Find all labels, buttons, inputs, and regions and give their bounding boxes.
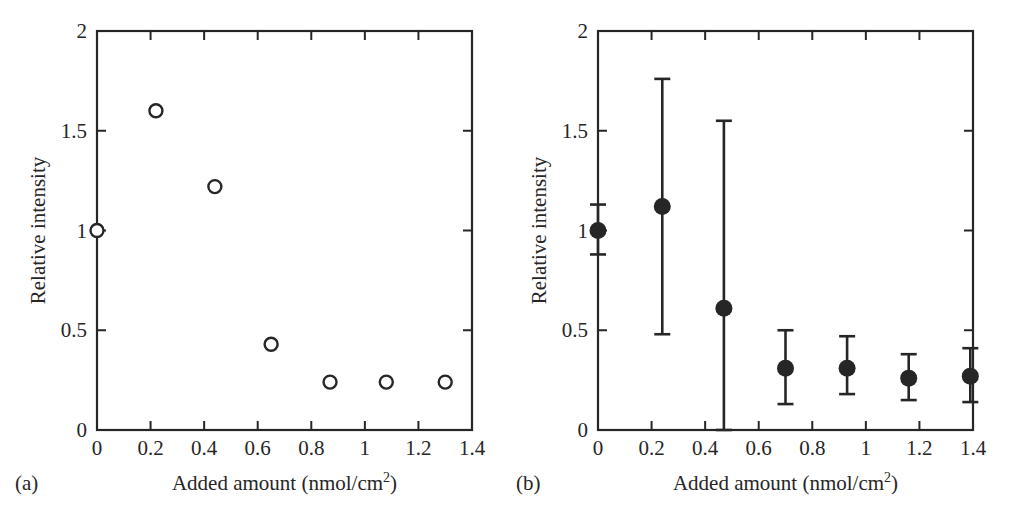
data-point-filled (654, 198, 671, 215)
figure-two-panel-scatter: 00.20.40.60.811.21.400.511.52Relative in… (0, 0, 1019, 508)
x-tick-label: 1.4 (459, 436, 486, 460)
x-tick-label: 1.2 (405, 436, 431, 460)
panel-letter: (a) (15, 471, 38, 495)
x-axis-title-superscript: 2 (884, 470, 891, 485)
panel-a: 00.20.40.60.811.21.400.511.52Relative in… (0, 0, 509, 508)
data-point-filled (962, 368, 979, 385)
panel-letter: (b) (516, 471, 541, 495)
y-tick-label: 1 (77, 219, 88, 243)
x-axis-title-close: ) (390, 471, 397, 495)
y-tick-label: 0.5 (61, 318, 87, 342)
y-tick-label: 0 (578, 418, 589, 442)
y-tick-label: 2 (578, 19, 589, 43)
x-tick-label: 0.8 (298, 436, 324, 460)
x-tick-label: 1.2 (906, 436, 932, 460)
error-bar (716, 121, 732, 430)
x-tick-label: 1 (360, 436, 371, 460)
x-tick-label: 0.6 (746, 436, 772, 460)
x-tick-label: 0.4 (191, 436, 218, 460)
data-point-filled (839, 360, 856, 377)
y-tick-label: 2 (77, 19, 88, 43)
plot-group: 00.20.40.60.811.21.400.511.52Relative in… (516, 19, 987, 495)
y-tick-label: 1.5 (61, 119, 87, 143)
x-tick-label: 0 (593, 436, 604, 460)
x-axis-title-main: Added amount (nmol/cm (172, 471, 383, 495)
x-tick-label: 1 (861, 436, 872, 460)
panel-a-plot: 00.20.40.60.811.21.400.511.52Relative in… (0, 0, 509, 508)
data-point-filled (777, 360, 794, 377)
data-point-open (439, 376, 452, 389)
x-axis-title-superscript: 2 (383, 470, 390, 485)
data-point-open (208, 180, 221, 193)
plot-frame (97, 31, 472, 430)
data-point-open (324, 376, 337, 389)
data-point-filled (590, 222, 607, 239)
x-tick-label: 1.4 (960, 436, 987, 460)
x-axis-title: Added amount (nmol/cm2) (172, 470, 397, 495)
panel-b: 00.20.40.60.811.21.400.511.52Relative in… (505, 0, 1014, 508)
x-axis-title: Added amount (nmol/cm2) (673, 470, 898, 495)
plot-group: 00.20.40.60.811.21.400.511.52Relative in… (15, 19, 486, 495)
y-tick-label: 0 (77, 418, 88, 442)
data-point-filled (900, 370, 917, 387)
x-tick-label: 0.2 (638, 436, 664, 460)
x-tick-label: 0 (92, 436, 103, 460)
y-axis-title: Relative intensity (26, 156, 50, 304)
y-tick-label: 0.5 (562, 318, 588, 342)
x-axis-title-main: Added amount (nmol/cm (673, 471, 884, 495)
x-tick-label: 0.6 (245, 436, 271, 460)
x-tick-label: 0.2 (137, 436, 163, 460)
data-point-open (91, 224, 104, 237)
y-axis-title: Relative intensity (527, 156, 551, 304)
x-axis-title-close: ) (891, 471, 898, 495)
data-point-open (149, 104, 162, 117)
data-point-open (380, 376, 393, 389)
y-tick-label: 1 (578, 219, 589, 243)
panel-b-plot: 00.20.40.60.811.21.400.511.52Relative in… (505, 0, 1019, 508)
y-tick-label: 1.5 (562, 119, 588, 143)
data-point-open (265, 338, 278, 351)
x-tick-label: 0.8 (799, 436, 825, 460)
data-point-filled (715, 300, 732, 317)
x-tick-label: 0.4 (692, 436, 719, 460)
